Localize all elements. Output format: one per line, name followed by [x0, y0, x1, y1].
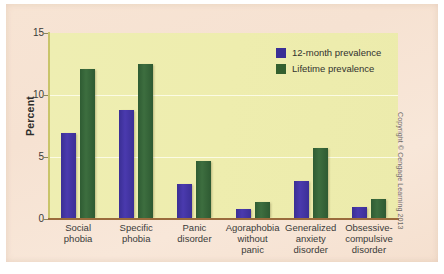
y-tick-mark [43, 219, 48, 220]
legend-item-12-month: 12-month prevalence [276, 47, 406, 58]
bar [138, 64, 153, 219]
figure-container: 051015 Percent SocialphobiaSpecificphobi… [0, 0, 444, 274]
x-category-label-line: disorder [335, 244, 403, 255]
y-tick-mark [43, 157, 48, 158]
gridline [49, 33, 398, 34]
bar [177, 184, 192, 219]
copyright-notice: Copyright © Cengage Learning 2013 [397, 112, 404, 229]
y-tick-mark [43, 95, 48, 96]
x-axis-category-labels: SocialphobiaSpecificphobiaPanicdisorderA… [49, 222, 398, 272]
y-tick-label: 0 [4, 214, 44, 224]
legend-label-lifetime: Lifetime prevalence [292, 63, 374, 74]
y-axis-title: Percent [24, 76, 36, 156]
legend-item-lifetime: Lifetime prevalence [276, 63, 406, 74]
legend-swatch-icon-12-month [276, 48, 286, 58]
bar [294, 181, 309, 219]
bar [255, 202, 270, 219]
y-tick-label: 15 [4, 28, 44, 38]
gridline [49, 95, 398, 96]
x-category-label-line: Obsessive- [335, 222, 403, 233]
bar [196, 161, 211, 219]
legend-label-12-month: 12-month prevalence [292, 47, 381, 58]
bar [119, 110, 134, 219]
y-tick-mark [43, 33, 48, 34]
x-category-label: Obsessive-compulsivedisorder [335, 222, 403, 255]
bar [61, 133, 76, 219]
y-axis-line [48, 32, 50, 220]
bar [371, 199, 386, 219]
x-category-label-line: compulsive [335, 233, 403, 244]
y-axis-tick-labels: 051015 [0, 0, 44, 274]
legend-swatch-icon-lifetime [276, 64, 286, 74]
bar [80, 69, 95, 219]
bar [313, 148, 328, 219]
chart-legend: 12-month prevalence Lifetime prevalence [276, 47, 406, 79]
gridline [49, 157, 398, 158]
x-axis-line [48, 218, 399, 220]
